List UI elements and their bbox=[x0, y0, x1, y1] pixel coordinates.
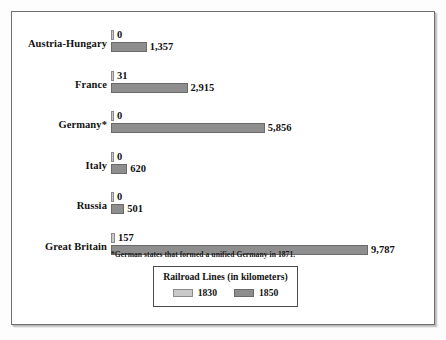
bar-value-label: 9,787 bbox=[371, 244, 395, 255]
bar-1830-austria-hungary bbox=[111, 30, 114, 40]
bar-1830-france bbox=[111, 71, 114, 81]
chart-footnote: *German states that formed a unified Ger… bbox=[111, 250, 295, 259]
chart-row: Germany*05,856 bbox=[12, 111, 436, 133]
category-label-germany: Germany* bbox=[12, 119, 107, 130]
category-label-austria-hungary: Austria-Hungary bbox=[12, 38, 107, 49]
bar-1830-italy bbox=[111, 152, 114, 162]
category-label-italy: Italy bbox=[12, 160, 107, 171]
chart-legend: Railroad Lines (in kilometers) 18301850 bbox=[153, 266, 298, 307]
chart-page: Austria-Hungary01,357France312,915German… bbox=[0, 0, 446, 340]
chart-row: Austria-Hungary01,357 bbox=[12, 30, 436, 52]
legend-label-1830: 1830 bbox=[198, 287, 217, 298]
legend-items: 18301850 bbox=[154, 287, 297, 298]
bar-1830-germany bbox=[111, 111, 114, 121]
category-label-russia: Russia bbox=[12, 200, 107, 211]
bar-value-label: 0 bbox=[117, 191, 122, 202]
bar-1850-russia bbox=[111, 204, 124, 214]
bar-value-label: 1,357 bbox=[150, 41, 174, 52]
bar-value-label: 0 bbox=[117, 110, 122, 121]
chart-row: France312,915 bbox=[12, 71, 436, 93]
bar-value-label: 0 bbox=[117, 29, 122, 40]
legend-swatch-1850 bbox=[234, 289, 254, 297]
legend-label-1850: 1850 bbox=[259, 287, 278, 298]
bar-1850-italy bbox=[111, 164, 127, 174]
category-label-france: France bbox=[12, 79, 107, 90]
legend-item-1850[interactable]: 1850 bbox=[234, 287, 278, 298]
bar-1830-russia bbox=[111, 192, 114, 202]
bar-value-label: 501 bbox=[127, 203, 143, 214]
bar-1850-germany bbox=[111, 123, 265, 133]
bar-1850-austria-hungary bbox=[111, 42, 147, 52]
bar-value-label: 5,856 bbox=[268, 122, 292, 133]
bar-value-label: 620 bbox=[130, 163, 146, 174]
legend-title: Railroad Lines (in kilometers) bbox=[154, 271, 297, 282]
bar-value-label: 31 bbox=[117, 70, 128, 81]
legend-item-1830[interactable]: 1830 bbox=[173, 287, 217, 298]
chart-row: Russia0501 bbox=[12, 192, 436, 214]
legend-swatch-1830 bbox=[173, 289, 193, 297]
bar-value-label: 2,915 bbox=[191, 82, 215, 93]
category-label-great-britain: Great Britain bbox=[12, 241, 107, 252]
chart-row: Italy0620 bbox=[12, 152, 436, 174]
bar-value-label: 157 bbox=[118, 232, 134, 243]
chart-frame: Austria-Hungary01,357France312,915German… bbox=[11, 11, 435, 325]
bar-1850-france bbox=[111, 83, 188, 93]
bar-value-label: 0 bbox=[117, 151, 122, 162]
bar-1830-great-britain bbox=[111, 233, 115, 243]
